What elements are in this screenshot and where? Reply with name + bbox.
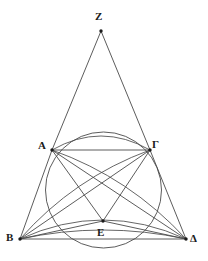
vertex-label-E: E xyxy=(97,227,104,238)
vertex-dot-A xyxy=(50,148,53,151)
segment-GD xyxy=(150,150,186,239)
vertex-dot-B xyxy=(18,237,21,240)
vertex-dot-E xyxy=(101,219,104,222)
vertex-dot-Z xyxy=(99,29,102,32)
diagram-canvas xyxy=(0,0,208,261)
vertex-label-A: A xyxy=(38,140,46,151)
segment-AB xyxy=(20,150,52,239)
vertex-label-G: Γ xyxy=(152,139,159,150)
vertex-label-Z: Z xyxy=(95,11,102,22)
vertex-label-D: Δ xyxy=(190,233,197,244)
geometry-figure: ZAΓBΔE xyxy=(0,0,208,261)
arc-arc-A-G-upper xyxy=(52,136,150,150)
segment-ZA xyxy=(52,31,101,150)
vertex-label-B: B xyxy=(6,232,13,243)
vertex-dot-D xyxy=(184,237,187,240)
